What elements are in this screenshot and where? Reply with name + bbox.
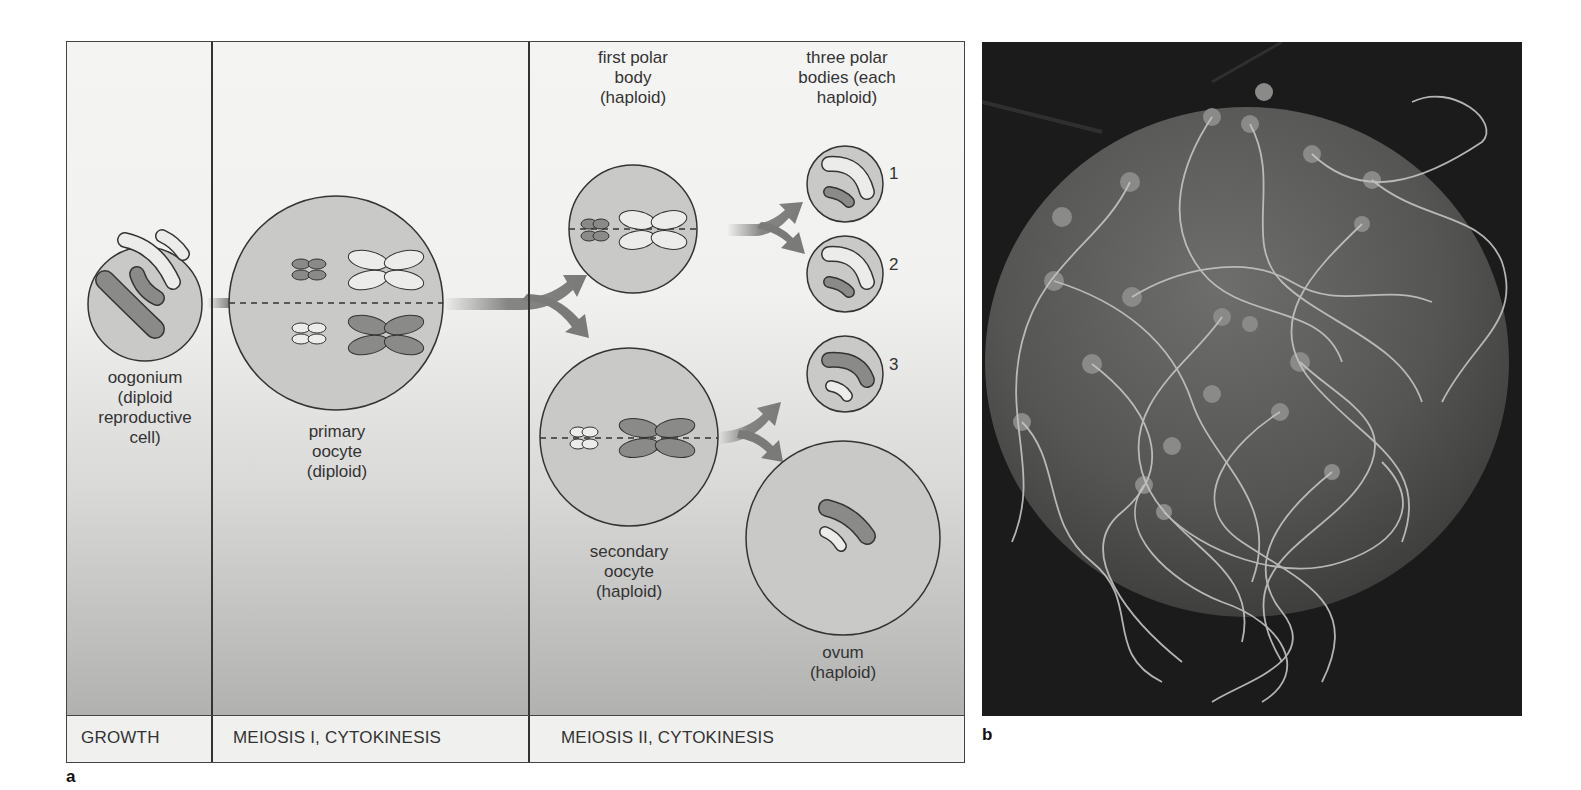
- phase-bar: GROWTH MEIOSIS I, CYTOKINESIS MEIOSIS II…: [67, 715, 964, 762]
- oogonium-cell: [88, 236, 202, 361]
- secondary-oocyte-cell: [540, 348, 718, 526]
- ovum-cell: [746, 441, 940, 635]
- panel-label-b: b: [982, 725, 992, 745]
- meiosis-ii-ovum-arrow: [719, 402, 783, 462]
- polar-body-1: [807, 146, 883, 222]
- first-polar-body-cell: [569, 165, 697, 293]
- meiosis-i-branch-arrow: [443, 275, 589, 338]
- meiosis-ii-polar-arrow: [727, 202, 805, 254]
- phase-meiosis-ii: MEIOSIS II, CYTOKINESIS: [561, 728, 774, 748]
- label-oogonium: oogonium (diploid reproductive cell): [73, 368, 217, 448]
- label-primary-oocyte: primary oocyte (diploid): [267, 422, 407, 482]
- polar-body-number-3: 3: [889, 355, 898, 375]
- label-secondary-oocyte: secondary oocyte (haploid): [564, 542, 694, 602]
- polar-body-number-1: 1: [889, 164, 898, 184]
- label-ovum: ovum (haploid): [793, 643, 893, 683]
- polar-body-2: [807, 236, 883, 312]
- primary-oocyte-cell: [229, 196, 443, 410]
- phase-meiosis-i: MEIOSIS I, CYTOKINESIS: [233, 728, 441, 748]
- panel-label-a: a: [66, 767, 75, 787]
- label-first-polar-body: first polar body (haploid): [573, 48, 693, 108]
- label-three-polar-bodies: three polar bodies (each haploid): [782, 48, 912, 108]
- phase-divider-1: [211, 716, 213, 762]
- panel-b-micrograph: [982, 42, 1522, 716]
- phase-divider-2: [528, 716, 530, 762]
- phase-growth: GROWTH: [81, 728, 160, 748]
- sperm-egg-micrograph: [982, 42, 1522, 716]
- divider-meiosis-i-meiosis-ii: [528, 42, 530, 762]
- panel-a-oogenesis-diagram: oogonium (diploid reproductive cell) pri…: [66, 41, 965, 763]
- polar-body-number-2: 2: [889, 255, 898, 275]
- polar-body-3: [807, 336, 883, 412]
